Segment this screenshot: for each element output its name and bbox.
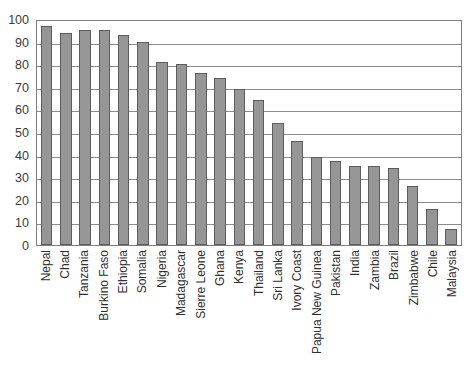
bar[interactable] — [79, 30, 91, 245]
bar[interactable] — [311, 157, 323, 245]
y-tick-label: 100 — [0, 14, 32, 27]
bar[interactable] — [330, 161, 342, 245]
x-tick-label: Thailand — [253, 250, 265, 296]
bar[interactable] — [195, 73, 207, 245]
bar-slot — [384, 21, 403, 245]
bar[interactable] — [99, 30, 111, 245]
bar-slot — [307, 21, 326, 245]
bar-slot — [76, 21, 95, 245]
bar-slot — [268, 21, 287, 245]
bar[interactable] — [368, 166, 380, 245]
bar[interactable] — [41, 26, 53, 245]
y-tick-label: 50 — [0, 127, 32, 140]
x-tick-label: Brazil — [388, 250, 400, 280]
x-tick-slot: Somalia — [133, 248, 152, 374]
x-axis-labels: NepalChadTanzaniaBurkino FasoEthiopiaSom… — [36, 248, 462, 374]
x-tick-slot: Malaysia — [443, 248, 462, 374]
plot-area — [36, 20, 462, 246]
y-tick-label: 80 — [0, 59, 32, 72]
x-tick-label: Tanzania — [78, 250, 90, 298]
bar[interactable] — [214, 78, 226, 245]
bar[interactable] — [445, 229, 457, 245]
bar[interactable] — [349, 166, 361, 245]
x-tick-slot: Ethiopia — [113, 248, 132, 374]
x-tick-label: Pakistan — [330, 250, 342, 296]
y-tick-label: 0 — [0, 240, 32, 253]
x-tick-slot: Burkino Faso — [94, 248, 113, 374]
bar-slot — [37, 21, 56, 245]
bar[interactable] — [388, 168, 400, 245]
x-tick-slot: Papua New Guinea — [307, 248, 326, 374]
y-tick-label: 40 — [0, 149, 32, 162]
x-tick-label: Nigeria — [156, 250, 168, 288]
bar[interactable] — [407, 186, 419, 245]
x-tick-label: Burkino Faso — [98, 250, 110, 321]
bar[interactable] — [137, 42, 149, 245]
x-tick-slot: Chile — [423, 248, 442, 374]
y-tick-label: 30 — [0, 172, 32, 185]
x-tick-slot: Zambia — [365, 248, 384, 374]
bar-slot — [422, 21, 441, 245]
x-tick-slot: Thailand — [249, 248, 268, 374]
x-tick-label: Papua New Guinea — [311, 250, 323, 354]
y-axis-labels: 1009080706050403020100 — [0, 20, 32, 246]
x-tick-label: Somalia — [136, 250, 148, 293]
bar-slot — [210, 21, 229, 245]
x-tick-label: Ethiopia — [117, 250, 129, 293]
x-tick-slot: Ivory Coast — [288, 248, 307, 374]
x-tick-label: Ghana — [214, 250, 226, 286]
bar-slot — [365, 21, 384, 245]
x-tick-label: Zambia — [369, 250, 381, 290]
x-tick-slot: Brazil — [384, 248, 403, 374]
x-tick-slot: Sierre Leone — [191, 248, 210, 374]
bar[interactable] — [118, 35, 130, 245]
x-tick-label: Chad — [59, 250, 71, 279]
x-tick-slot: India — [346, 248, 365, 374]
x-tick-label: Ivory Coast — [291, 250, 303, 311]
bar-series — [37, 21, 461, 245]
bar[interactable] — [291, 141, 303, 245]
bar-slot — [56, 21, 75, 245]
bar-slot — [230, 21, 249, 245]
y-tick-label: 90 — [0, 36, 32, 49]
x-tick-slot: Pakistan — [326, 248, 345, 374]
bar[interactable] — [253, 100, 265, 245]
bar-slot — [403, 21, 422, 245]
bar[interactable] — [234, 89, 246, 245]
bar-slot — [442, 21, 461, 245]
x-tick-label: Nepal — [40, 250, 52, 281]
chart-title — [0, 0, 473, 2]
bar[interactable] — [156, 62, 168, 245]
bar[interactable] — [426, 209, 438, 245]
x-tick-slot: Sri Lanka — [268, 248, 287, 374]
x-tick-label: Madagascar — [175, 250, 187, 316]
y-tick-label: 70 — [0, 82, 32, 95]
bar-slot — [326, 21, 345, 245]
x-tick-label: Zimbabwe — [408, 250, 420, 305]
x-tick-slot: Nepal — [36, 248, 55, 374]
x-tick-slot: Kenya — [230, 248, 249, 374]
bar-slot — [153, 21, 172, 245]
x-tick-slot: Nigeria — [152, 248, 171, 374]
x-tick-slot: Ghana — [210, 248, 229, 374]
x-tick-slot: Zimbabwe — [404, 248, 423, 374]
bar-slot — [249, 21, 268, 245]
bar[interactable] — [272, 123, 284, 245]
bar-slot — [114, 21, 133, 245]
x-tick-label: Chile — [427, 250, 439, 277]
y-tick-label: 10 — [0, 217, 32, 230]
x-tick-label: India — [349, 250, 361, 276]
bar-slot — [287, 21, 306, 245]
bar-slot — [95, 21, 114, 245]
bar[interactable] — [60, 33, 72, 245]
x-tick-slot: Chad — [55, 248, 74, 374]
x-tick-slot: Tanzania — [75, 248, 94, 374]
bar[interactable] — [176, 64, 188, 245]
bar-slot — [133, 21, 152, 245]
y-tick-label: 20 — [0, 195, 32, 208]
x-tick-label: Sri Lanka — [272, 250, 284, 301]
x-tick-label: Malaysia — [446, 250, 458, 297]
y-tick-label: 60 — [0, 104, 32, 117]
bar-slot — [345, 21, 364, 245]
x-tick-label: Kenya — [233, 250, 245, 284]
